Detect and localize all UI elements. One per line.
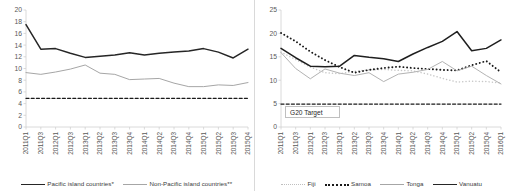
svg-text:2015Q2: 2015Q2: [468, 132, 476, 155]
svg-text:18: 18: [14, 18, 22, 25]
svg-text:2013Q4: 2013Q4: [126, 132, 134, 155]
svg-text:5: 5: [273, 100, 277, 107]
right-chart-legend: FijiSamoaTongaVanuatu: [255, 181, 507, 187]
legend-swatch-icon: [281, 181, 305, 187]
svg-text:2013Q2: 2013Q2: [351, 132, 359, 155]
legend-item: Non-Pacific island countries**: [123, 181, 232, 187]
right-chart-plot: 05101520252011Q12011Q32012Q12012Q32013Q1…: [255, 0, 507, 172]
svg-text:6: 6: [18, 88, 22, 95]
svg-text:2016Q1: 2016Q1: [497, 132, 505, 155]
svg-text:2014Q4: 2014Q4: [185, 132, 193, 155]
svg-text:14: 14: [14, 42, 22, 49]
svg-text:2011Q3: 2011Q3: [37, 132, 45, 155]
svg-text:15: 15: [269, 53, 277, 60]
svg-text:4: 4: [18, 100, 22, 107]
svg-text:16: 16: [14, 30, 22, 37]
svg-text:2014Q3: 2014Q3: [170, 132, 178, 155]
svg-text:2014Q2: 2014Q2: [409, 132, 417, 155]
svg-text:20: 20: [14, 6, 22, 13]
legend-item: Fiji: [281, 181, 316, 187]
svg-text:2012Q3: 2012Q3: [321, 132, 329, 155]
g20-target-annotation: G20 Target: [285, 106, 340, 118]
svg-text:2013Q3: 2013Q3: [111, 132, 119, 155]
left-chart-legend: Pacific island countries*Non-Pacific isl…: [0, 181, 253, 187]
legend-swatch-icon: [21, 181, 45, 187]
svg-text:0: 0: [18, 123, 22, 130]
svg-text:2011Q3: 2011Q3: [292, 132, 300, 155]
svg-text:12: 12: [14, 53, 22, 60]
svg-text:8: 8: [18, 77, 22, 84]
legend-item: Pacific island countries*: [21, 181, 114, 187]
svg-text:25: 25: [269, 6, 277, 13]
svg-text:2011Q1: 2011Q1: [277, 132, 285, 155]
svg-text:2015Q1: 2015Q1: [200, 132, 208, 155]
chart-page: 024681012141618202011Q12011Q32012Q12012Q…: [0, 0, 507, 191]
legend-swatch-icon: [380, 181, 404, 187]
svg-text:2012Q1: 2012Q1: [52, 132, 60, 155]
legend-item-label: Vanuatu: [459, 181, 482, 187]
svg-text:2013Q1: 2013Q1: [336, 132, 344, 155]
legend-item: Vanuatu: [433, 181, 482, 187]
legend-item-label: Tonga: [406, 181, 423, 187]
svg-text:0: 0: [273, 123, 277, 130]
legend-item-label: Samoa: [351, 181, 371, 187]
left-chart-plot: 024681012141618202011Q12011Q32012Q12012Q…: [0, 0, 253, 172]
svg-text:2015Q2: 2015Q2: [215, 132, 223, 155]
svg-text:2013Q3: 2013Q3: [365, 132, 373, 155]
legend-item: Tonga: [380, 181, 424, 187]
svg-text:2014Q2: 2014Q2: [156, 132, 164, 155]
svg-text:2013Q2: 2013Q2: [96, 132, 104, 155]
legend-item-label: Fiji: [307, 181, 315, 187]
svg-text:2015Q4: 2015Q4: [483, 132, 491, 155]
svg-text:2013Q4: 2013Q4: [380, 132, 388, 155]
right-chart-panel: 05101520252011Q12011Q32012Q12012Q32013Q1…: [254, 0, 507, 191]
svg-text:2014Q3: 2014Q3: [424, 132, 432, 155]
svg-text:2014Q4: 2014Q4: [439, 132, 447, 155]
left-chart-panel: 024681012141618202011Q12011Q32012Q12012Q…: [0, 0, 253, 191]
svg-text:2: 2: [18, 112, 22, 119]
svg-text:2015Q1: 2015Q1: [453, 132, 461, 155]
legend-swatch-icon: [325, 181, 349, 187]
legend-swatch-icon: [123, 181, 147, 187]
legend-item: Samoa: [325, 181, 371, 187]
svg-text:2012Q3: 2012Q3: [67, 132, 75, 155]
svg-text:2014Q1: 2014Q1: [141, 132, 149, 155]
legend-swatch-icon: [433, 181, 457, 187]
svg-text:20: 20: [269, 30, 277, 37]
svg-text:2014Q1: 2014Q1: [395, 132, 403, 155]
svg-text:10: 10: [269, 77, 277, 84]
svg-text:2015Q4: 2015Q4: [244, 132, 252, 155]
svg-text:2015Q3: 2015Q3: [230, 132, 238, 155]
svg-text:2011Q1: 2011Q1: [22, 132, 30, 155]
svg-text:2012Q1: 2012Q1: [307, 132, 315, 155]
legend-item-label: Non-Pacific island countries**: [149, 181, 232, 187]
legend-item-label: Pacific island countries*: [47, 181, 114, 187]
svg-text:2013Q1: 2013Q1: [82, 132, 90, 155]
svg-text:10: 10: [14, 65, 22, 72]
